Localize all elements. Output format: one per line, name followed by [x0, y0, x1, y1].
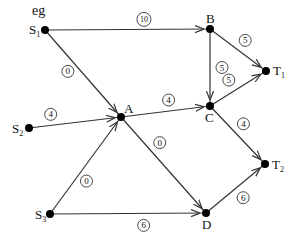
- node-t2: [261, 160, 269, 168]
- capacity-label: 0: [80, 175, 92, 187]
- flow-network-diagram: 1004064055546 eg S1BT1CAS2S3DT2: [0, 0, 290, 240]
- node-label-text: T: [273, 63, 281, 78]
- capacity-label: 0: [62, 65, 74, 77]
- arrowhead-icon: [250, 168, 261, 177]
- arrowhead-icon: [249, 74, 261, 81]
- node-label-subscript: 1: [281, 71, 285, 80]
- capacity-label: 5: [223, 74, 235, 86]
- arrowhead-icon: [193, 198, 202, 208]
- capacity-label: 10: [137, 12, 151, 26]
- capacity-value: 5: [220, 63, 225, 73]
- node-label-text: T: [272, 157, 280, 172]
- capacity-label: 6: [237, 192, 249, 204]
- node-s3: [46, 210, 54, 218]
- node-label-a: A: [124, 102, 133, 115]
- capacity-value: 6: [241, 193, 246, 203]
- node-label-text: C: [205, 110, 214, 125]
- node-label-subscript: 1: [36, 30, 40, 39]
- node-label-subscript: 2: [19, 129, 23, 138]
- capacity-label: 6: [138, 219, 150, 231]
- capacity-label: 4: [237, 118, 249, 130]
- node-label-text: B: [206, 11, 215, 26]
- capacity-value: 5: [243, 35, 248, 45]
- edge-s3-d: [50, 213, 206, 214]
- node-label-t2: T2: [272, 158, 284, 174]
- node-b: [206, 25, 214, 33]
- capacity-label: 4: [163, 94, 175, 106]
- node-label-c: C: [205, 111, 214, 124]
- node-c: [206, 102, 214, 110]
- arrowhead-icon: [250, 59, 261, 67]
- node-label-text: A: [124, 101, 133, 116]
- edge-s1-b: [45, 29, 210, 30]
- capacity-value: 10: [140, 15, 148, 24]
- node-d: [202, 209, 210, 217]
- capacity-value: 4: [241, 119, 246, 129]
- capacity-value: 4: [166, 95, 171, 105]
- node-s2: [25, 124, 33, 132]
- node-label-d: D: [202, 218, 211, 231]
- capacity-label: 5: [239, 34, 251, 46]
- arrowhead-icon: [251, 149, 261, 159]
- capacity-value: 0: [84, 176, 89, 186]
- capacity-value: 4: [48, 109, 53, 119]
- arrowhead-icon: [108, 102, 117, 113]
- capacity-value: 5: [227, 75, 232, 85]
- edges-layer: 1004064055546: [0, 0, 290, 240]
- capacity-label: 4: [45, 108, 57, 120]
- capacity-value: 0: [66, 66, 71, 76]
- node-label-t1: T1: [273, 64, 285, 80]
- node-label-s3: S3: [35, 208, 46, 224]
- node-label-b: B: [206, 12, 215, 25]
- capacity-label: 0: [154, 137, 166, 149]
- capacity-label: 5: [216, 62, 228, 74]
- node-t1: [262, 67, 270, 75]
- node-label-s2: S2: [12, 122, 23, 138]
- capacity-value: 0: [157, 138, 162, 148]
- capacity-value: 6: [141, 220, 146, 230]
- node-label-text: D: [202, 217, 211, 232]
- node-label-s1: S1: [29, 23, 40, 39]
- diagram-title: eg: [32, 4, 45, 18]
- node-label-subscript: 3: [42, 215, 46, 224]
- node-label-subscript: 2: [280, 165, 284, 174]
- node-s1: [41, 26, 49, 34]
- arrowhead-icon: [109, 122, 117, 133]
